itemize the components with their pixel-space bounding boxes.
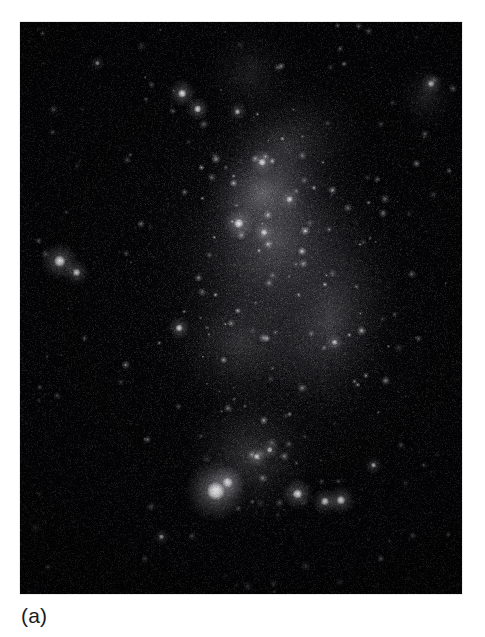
- panel-caption: (a): [21, 603, 47, 629]
- galaxy-image-canvas: [20, 22, 462, 594]
- figure-panel: (a): [0, 0, 485, 637]
- astronomy-photo-plate: [20, 22, 462, 594]
